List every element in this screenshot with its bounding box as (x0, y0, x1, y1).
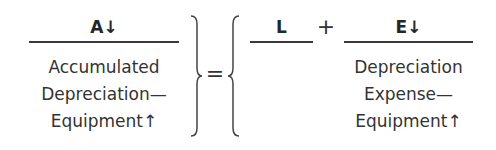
assets-rule (29, 41, 179, 43)
equity-rule (344, 41, 473, 43)
right-brace-icon (188, 14, 204, 138)
assets-line: Equipment↑ (19, 108, 189, 135)
assets-header: A↓ (29, 17, 179, 37)
equity-header: E↓ (344, 17, 473, 37)
equity-line: Expense— (334, 81, 483, 108)
liabilities-rule (250, 41, 313, 43)
assets-line: Accumulated (19, 54, 189, 81)
plus-sign: + (314, 14, 338, 40)
equity-line: Equipment↑ (334, 108, 483, 135)
assets-line: Depreciation— (19, 81, 189, 108)
equity-accounts: Depreciation Expense— Equipment↑ (334, 54, 483, 135)
left-brace-icon (226, 14, 242, 138)
liabilities-header: L (250, 17, 313, 37)
equals-sign: = (205, 62, 225, 86)
equity-line: Depreciation (334, 54, 483, 81)
assets-accounts: Accumulated Depreciation— Equipment↑ (19, 54, 189, 135)
